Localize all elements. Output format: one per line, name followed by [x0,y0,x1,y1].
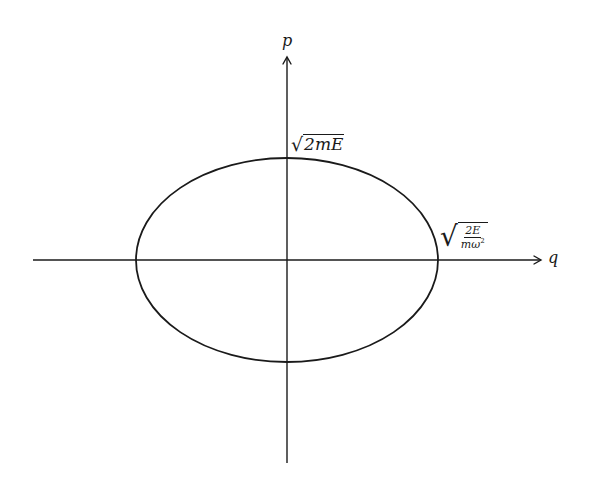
q-max-denominator-base: mω [461,238,480,251]
phase-space-diagram: p q √ 2mE √ 2E mω2 [0,0,589,482]
q-axis-label: q [548,250,558,266]
p-max-radicand: 2mE [303,134,344,154]
diagram-canvas [0,0,589,482]
q-max-label: √ 2E mω2 [440,222,488,251]
q-max-denominator: mω2 [461,238,485,251]
q-max-numerator: 2E [464,225,481,238]
q-max-denominator-exponent: 2 [480,237,484,245]
p-axis-label: p [282,33,292,49]
p-max-label: √ 2mE [291,134,344,154]
q-max-fraction: 2E mω2 [458,222,488,251]
sqrt-symbol: √ [291,135,303,154]
sqrt-symbol: √ [440,223,458,251]
